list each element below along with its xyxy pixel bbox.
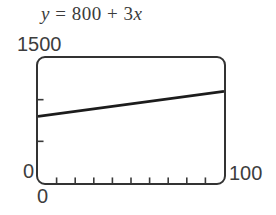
x-min-label: 0 [37,186,48,206]
y-max-label: 1500 [17,34,62,54]
x-max-label: 100 [229,163,262,183]
function-line [38,91,224,116]
calculator-graph-figure: y = 800 + 3x 1500 0 0 100 [0,0,276,215]
equation-plus: + [102,3,124,24]
plot-area [38,58,224,183]
equation-label: y = 800 + 3x [41,3,142,25]
equation-variable: x [133,3,142,24]
equation-intercept: 800 [72,3,102,24]
calculator-screen [36,56,226,185]
equation-slope: 3 [123,3,133,24]
equation-lhs: y [41,3,50,24]
equation-equals: = [50,3,72,24]
y-min-label: 0 [14,161,34,181]
